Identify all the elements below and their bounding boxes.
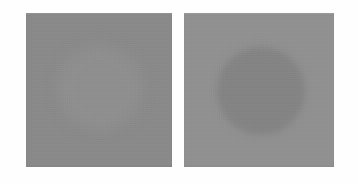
right-stimulus-panel [184,13,334,167]
low-contrast-disc [57,45,143,131]
stimulus-canvas [0,0,358,184]
high-contrast-disc [217,47,305,135]
left-stimulus-panel [26,13,172,167]
